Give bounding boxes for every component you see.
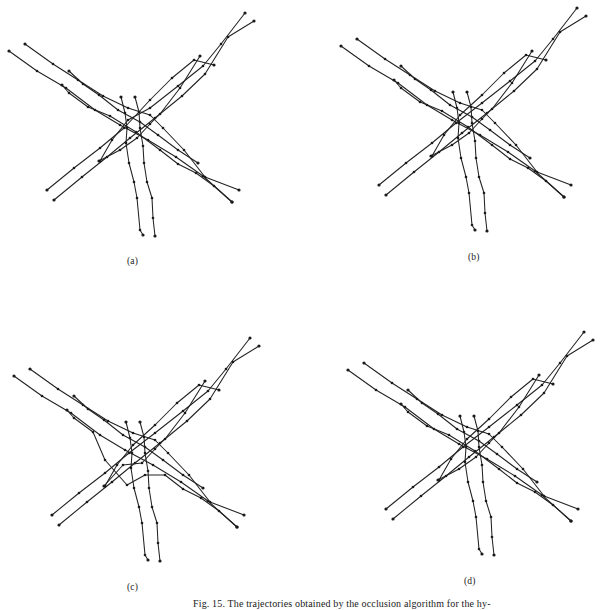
- trajectory-point: [436, 478, 439, 481]
- trajectory-point: [420, 495, 423, 498]
- trajectory-point: [472, 414, 475, 417]
- trajectory-line: [348, 370, 571, 521]
- trajectory-point: [346, 368, 349, 371]
- trajectory-point: [543, 495, 546, 498]
- trajectory-point: [438, 466, 441, 469]
- trajectory-point: [488, 418, 491, 421]
- trajectory-point: [541, 384, 544, 387]
- trajectory-point: [472, 500, 475, 503]
- trajectory-point: [466, 426, 469, 429]
- trajectory-point: [421, 402, 424, 405]
- panel-d: (d): [0, 0, 604, 600]
- trajectory-point: [391, 517, 394, 520]
- trajectory-point: [582, 330, 585, 333]
- trajectory-point: [522, 468, 525, 471]
- trajectory-point: [535, 480, 538, 483]
- trajectory-point: [480, 552, 483, 555]
- trajectory-point: [391, 382, 394, 385]
- trajectory-point: [481, 464, 484, 467]
- trajectory-point: [569, 519, 572, 522]
- trajectory-point: [456, 428, 459, 431]
- trajectory-point: [375, 389, 378, 392]
- trajectory-point: [520, 414, 523, 417]
- trajectory-point: [492, 553, 495, 556]
- trajectory-plot-d: [0, 0, 604, 600]
- trajectory-point: [498, 432, 501, 435]
- trajectory-point: [407, 411, 410, 414]
- trajectory-point: [462, 446, 465, 449]
- trajectory-point: [488, 442, 491, 445]
- trajectory-point: [591, 338, 594, 341]
- trajectory-point: [532, 378, 535, 381]
- trajectory-point: [475, 516, 478, 519]
- trajectory-point: [464, 461, 467, 464]
- trajectory-point: [516, 404, 519, 407]
- trajectory-point: [518, 406, 521, 409]
- trajectory-point: [534, 491, 537, 494]
- trajectory-point: [467, 481, 470, 484]
- trajectory-point: [514, 475, 517, 478]
- trajectory-point: [362, 361, 365, 364]
- trajectory-point: [468, 456, 471, 459]
- trajectory-point: [488, 433, 491, 436]
- trajectory-point: [406, 388, 409, 391]
- trajectory-point: [384, 507, 387, 510]
- trajectory-point: [475, 456, 478, 459]
- panel-label-d: (d): [464, 576, 476, 586]
- trajectory-point: [566, 355, 569, 358]
- trajectory-point: [458, 468, 461, 471]
- trajectory-point: [478, 446, 481, 449]
- trajectory-point: [498, 468, 501, 471]
- trajectory-point: [516, 482, 519, 485]
- trajectory-point: [485, 500, 488, 503]
- trajectory-point: [482, 481, 485, 484]
- trajectory-point: [465, 446, 468, 449]
- trajectory-point: [426, 425, 429, 428]
- trajectory-point: [458, 443, 461, 446]
- trajectory-point: [496, 453, 499, 456]
- trajectory-line: [386, 332, 584, 509]
- trajectory-point: [450, 458, 453, 461]
- trajectory-point: [552, 504, 555, 507]
- trajectory-point: [399, 402, 402, 405]
- trajectory-point: [478, 548, 481, 551]
- trajectory-point: [537, 373, 540, 376]
- trajectory-point: [458, 414, 461, 417]
- trajectory-point: [510, 396, 513, 399]
- trajectory-point: [491, 536, 494, 539]
- trajectory-point: [466, 438, 469, 441]
- trajectory-point: [559, 362, 562, 365]
- trajectory-point: [437, 413, 440, 416]
- trajectory-line: [393, 340, 593, 519]
- trajectory-point: [477, 430, 480, 433]
- figure-caption: Fig. 15. The trajectories obtained by th…: [193, 598, 491, 609]
- trajectory-point: [412, 486, 415, 489]
- trajectory-point: [463, 431, 466, 434]
- trajectory-point: [488, 426, 491, 429]
- trajectory-point: [501, 446, 504, 449]
- trajectory-point: [576, 507, 579, 510]
- trajectory-point: [551, 382, 554, 385]
- trajectory-point: [490, 516, 493, 519]
- trajectory-point: [516, 468, 519, 471]
- trajectory-point: [448, 434, 451, 437]
- trajectory-point: [543, 392, 546, 395]
